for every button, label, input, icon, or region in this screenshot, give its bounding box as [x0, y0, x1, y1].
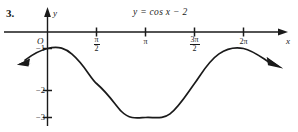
cosine-graph-figure: 3. y = cos x − 2 y x O π 2 π 3π 2 2π −1 …	[0, 0, 298, 132]
y-axis	[44, 7, 51, 126]
fraction-denominator: 2	[189, 45, 199, 53]
xtick-label-2pi: 2π	[239, 36, 247, 46]
fraction-pi-over-2: π 2	[93, 36, 99, 54]
x-axis-label: x	[286, 37, 290, 46]
x-axis-arrowhead	[278, 29, 288, 36]
fraction-denominator: 2	[93, 45, 99, 53]
ytick-label-neg2: −2	[31, 85, 45, 95]
problem-number: 3.	[6, 8, 14, 19]
cosine-curve	[17, 47, 283, 118]
y-axis-label: y	[53, 9, 57, 18]
ytick-label-neg3: −3	[31, 112, 45, 122]
y-axis-arrowhead	[44, 7, 51, 17]
xtick-text-2pi: 2π	[239, 36, 247, 46]
xtick-text-pi: π	[143, 36, 147, 46]
xtick-label-3pi-over-2: 3π 2	[189, 36, 199, 54]
equation-label: y = cos x − 2	[133, 8, 187, 18]
fraction-3pi-over-2: 3π 2	[189, 36, 199, 54]
xtick-label-pi-over-2: π 2	[93, 36, 99, 54]
ytick-label-neg1: −1	[31, 43, 45, 53]
xtick-label-pi: π	[143, 36, 147, 46]
